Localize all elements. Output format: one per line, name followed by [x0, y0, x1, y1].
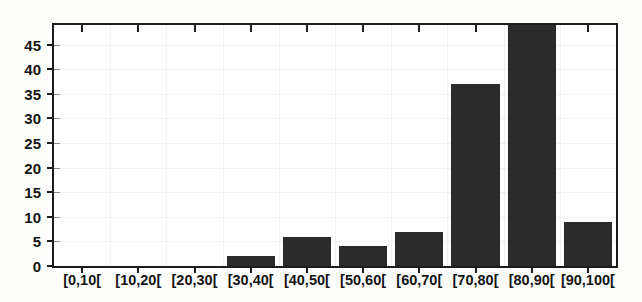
gridline-vertical — [391, 25, 392, 266]
y-axis-tick — [47, 93, 54, 95]
y-axis-label: 40 — [0, 61, 41, 78]
x-axis-label: [40,50[ — [284, 272, 330, 288]
y-axis-tick-inner — [54, 192, 60, 193]
x-axis-tick-top — [250, 25, 252, 32]
y-axis-tick — [47, 191, 54, 193]
y-axis-tick — [47, 68, 54, 70]
bar — [339, 246, 387, 266]
x-axis-tick-top — [137, 25, 139, 32]
x-axis-tick-top — [418, 25, 420, 32]
bar — [451, 84, 499, 266]
gridline-vertical — [560, 25, 561, 266]
y-axis-label: 20 — [0, 159, 41, 176]
x-axis-label: [0,10[ — [63, 272, 101, 288]
y-axis-tick-inner — [54, 241, 60, 242]
y-axis-tick-inner — [54, 45, 60, 46]
y-axis-label: 10 — [0, 208, 41, 225]
x-axis-tick-top — [362, 25, 364, 32]
x-axis-label: [90,100[ — [561, 272, 615, 288]
y-axis-label: 0 — [0, 258, 41, 275]
gridline-vertical — [223, 25, 224, 266]
x-axis-tick-top — [587, 25, 589, 32]
x-axis-label: [10,20[ — [115, 272, 161, 288]
y-axis-tick — [47, 142, 54, 144]
y-axis-label: 45 — [0, 36, 41, 53]
y-axis-tick — [47, 216, 54, 218]
bar — [395, 232, 443, 266]
plot-area — [52, 23, 618, 268]
bar — [227, 256, 275, 266]
bar — [564, 222, 612, 266]
gridline-vertical — [504, 25, 505, 266]
y-axis-tick-inner — [54, 143, 60, 144]
x-axis-tick-top — [194, 25, 196, 32]
y-axis-label: 30 — [0, 110, 41, 127]
gridline-vertical — [110, 25, 111, 266]
y-axis-label: 35 — [0, 85, 41, 102]
y-axis-tick-inner — [54, 94, 60, 95]
x-axis-tick-top — [306, 25, 308, 32]
x-axis-label: [70,80[ — [453, 272, 499, 288]
x-axis-label: [60,70[ — [396, 272, 442, 288]
gridline-vertical — [279, 25, 280, 266]
y-axis-tick-inner — [54, 217, 60, 218]
gridline-vertical — [447, 25, 448, 266]
x-axis-tick-top — [81, 25, 83, 32]
bar — [283, 237, 331, 267]
y-axis-tick — [47, 44, 54, 46]
y-axis-tick — [47, 117, 54, 119]
y-axis-tick-inner — [54, 118, 60, 119]
x-axis-tick-top — [475, 25, 477, 32]
gridline-vertical — [166, 25, 167, 266]
y-axis-label: 5 — [0, 233, 41, 250]
bar — [508, 25, 556, 266]
y-axis-label: 15 — [0, 184, 41, 201]
x-axis-label: [50,60[ — [340, 272, 386, 288]
y-axis-tick — [47, 240, 54, 242]
y-axis-tick-inner — [54, 168, 60, 169]
y-axis-tick — [47, 265, 54, 267]
histogram-figure: 051015202530354045 [0,10[[10,20[[20,30[[… — [0, 0, 642, 302]
y-axis-tick-inner — [54, 69, 60, 70]
x-axis-label: [80,90[ — [509, 272, 555, 288]
x-axis-label: [30,40[ — [228, 272, 274, 288]
y-axis-label: 25 — [0, 135, 41, 152]
y-axis-tick — [47, 167, 54, 169]
gridline-vertical — [335, 25, 336, 266]
x-axis-label: [20,30[ — [172, 272, 218, 288]
